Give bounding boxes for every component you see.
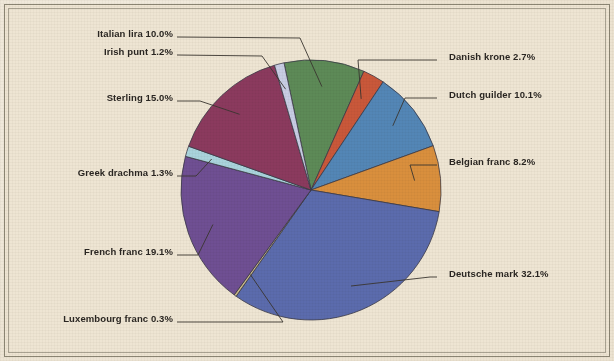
pie-slice-label: Belgian franc 8.2% bbox=[449, 156, 535, 167]
pie-slice-label: Sterling 15.0% bbox=[0, 92, 173, 103]
pie-slice-label: Deutsche mark 32.1% bbox=[449, 268, 549, 279]
pie-slice-label: Italian lira 10.0% bbox=[0, 28, 173, 39]
pie-slice-label: Danish krone 2.7% bbox=[449, 51, 535, 62]
pie-slice-label: Luxembourg franc 0.3% bbox=[0, 313, 173, 324]
figure-panel: Italian lira 10.0%Danish krone 2.7%Dutch… bbox=[0, 0, 614, 361]
pie-slice-group bbox=[181, 60, 441, 320]
pie-slice-label: Dutch guilder 10.1% bbox=[449, 89, 542, 100]
pie-slice-label: Greek drachma 1.3% bbox=[0, 167, 173, 178]
pie-slice-label: Irish punt 1.2% bbox=[0, 46, 173, 57]
pie-slice-label: French franc 19.1% bbox=[0, 246, 173, 257]
